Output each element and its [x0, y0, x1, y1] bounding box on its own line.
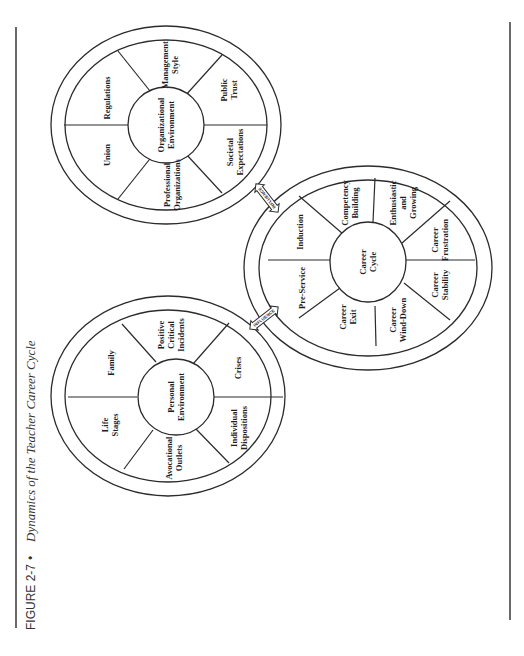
arrow-label: INFLUENCE	[257, 186, 277, 209]
caption-separator: •	[24, 556, 38, 560]
svg-text:Incidents: Incidents	[176, 318, 186, 352]
svg-text:Outlets: Outlets	[174, 444, 184, 471]
hub-label: Career	[358, 249, 368, 275]
segment-label-avocational-outlets: Avocational	[164, 436, 174, 479]
figure-title: Dynamics of the Teacher Career Cycle	[23, 340, 38, 543]
svg-text:Building: Building	[350, 187, 360, 219]
segment-label-societal-expectations: Societal	[225, 137, 235, 166]
segment-label-career-stability: Career	[430, 272, 440, 298]
segment-label-union: Union	[102, 144, 112, 166]
segment-label-enthusiastic-growing: Enthusiastic	[388, 180, 398, 225]
spoke	[186, 154, 222, 193]
spoke	[185, 55, 222, 96]
segment-label-career-frustration: Career	[430, 227, 440, 253]
segment-label-positive-critical-incidents: Positive	[156, 321, 166, 350]
figure-canvas: FIGURE 2-7 • Dynamics of the Teacher Car…	[0, 0, 524, 656]
spoke	[124, 430, 153, 469]
segment-label-pre-service: Pre-Service	[297, 267, 307, 309]
segment-label-public-trust: Public	[219, 78, 229, 101]
hub-label: Organizational	[156, 97, 166, 152]
hub-label: Personal	[166, 381, 176, 413]
organizational-environment-wheel: Organizational Environment Regulations M…	[51, 26, 281, 224]
svg-text:Exit: Exit	[348, 309, 358, 324]
segment-label-family: Family	[106, 350, 116, 376]
spoke	[193, 323, 229, 364]
figure-caption: FIGURE 2-7 • Dynamics of the Teacher Car…	[23, 340, 38, 630]
svg-text:Organizations: Organizations	[172, 159, 182, 211]
segment-label-life-stages: Life	[100, 417, 110, 432]
segment-label-competency-building: Competency	[340, 180, 350, 226]
hub-label: Environment	[166, 101, 176, 149]
spoke	[373, 178, 375, 222]
segment-label-management-style: Management	[160, 41, 170, 89]
career-cycle-wheel: Career Cycle Induction Competency Buildi…	[244, 166, 492, 370]
spoke	[375, 306, 376, 346]
spoke	[299, 196, 343, 234]
segment-label-induction: Induction	[295, 214, 305, 250]
svg-text:Frustration: Frustration	[440, 219, 450, 261]
lower-influence-arrow: INFLUENCE	[246, 302, 282, 334]
spoke	[118, 51, 154, 96]
hub-label: Environment	[176, 373, 186, 421]
svg-text:Stages: Stages	[110, 413, 120, 437]
spoke	[195, 428, 229, 463]
segment-label-career-exit: Career	[338, 304, 348, 330]
svg-text:Growing: Growing	[408, 186, 418, 219]
segment-label-individual-dispositions: Individual	[229, 408, 239, 446]
svg-text:and: and	[398, 196, 408, 210]
segment-label-career-wind-down: Career	[388, 307, 398, 333]
figure-label: FIGURE 2-7	[24, 564, 38, 630]
svg-text:Critical: Critical	[166, 320, 176, 348]
svg-text:Expectations: Expectations	[235, 128, 245, 175]
spoke	[118, 155, 153, 199]
svg-text:Trust: Trust	[229, 80, 239, 100]
segment-label-professional-organizations: Professional	[162, 162, 172, 207]
svg-text:Dispositions: Dispositions	[239, 405, 249, 450]
segment-label-regulations: Regulations	[102, 76, 112, 120]
hub-label: Cycle	[368, 252, 378, 273]
svg-text:Stability: Stability	[440, 269, 450, 300]
segment-label-crises: Crises	[233, 356, 243, 379]
spoke	[122, 324, 156, 362]
svg-text:Style: Style	[170, 56, 180, 74]
svg-text:Wind-Down: Wind-Down	[398, 298, 408, 343]
